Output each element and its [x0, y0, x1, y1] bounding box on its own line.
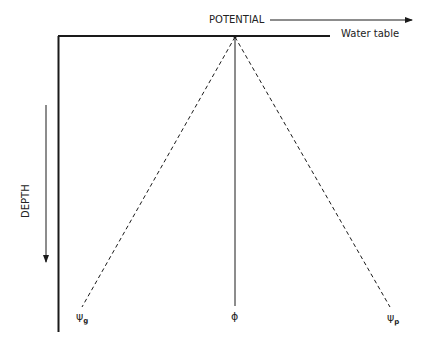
phi-main: ϕ [231, 310, 238, 323]
psi-p-line [235, 37, 390, 307]
phi-symbol: ϕ [231, 310, 238, 323]
psi-g-symbol: ψg [76, 310, 88, 325]
diagram-canvas [0, 0, 431, 355]
depth-label: DEPTH [20, 184, 31, 218]
psi-p-sub: p [394, 318, 399, 326]
psi-p-symbol: ψp [387, 311, 399, 326]
psi-g-line [82, 37, 235, 307]
potential-label: POTENTIAL [209, 14, 264, 25]
psi-g-sub: g [83, 317, 88, 325]
water-table-label: Water table [341, 28, 399, 39]
apex-point [234, 36, 237, 39]
